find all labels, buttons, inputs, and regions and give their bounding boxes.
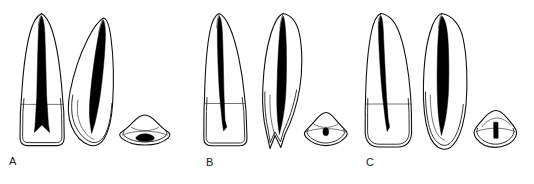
- tooth-group-a: [20, 14, 170, 146]
- tooth-b-proximal-view: [263, 14, 302, 149]
- dental-anatomy-figure: A B C: [0, 0, 534, 184]
- tooth-b-cross-section-view: [304, 113, 347, 146]
- tooth-group-b: [204, 14, 347, 149]
- tooth-a-labial-view: [20, 14, 64, 146]
- tooth-a-proximal-view: [68, 18, 113, 146]
- tooth-c-labial-view: [365, 14, 411, 148]
- tooth-group-c: [365, 14, 516, 150]
- tooth-diagram-canvas: [0, 0, 534, 184]
- group-label-b: B: [206, 157, 214, 168]
- tooth-c-proximal-view: [423, 14, 467, 150]
- tooth-c-cross-section-view: [474, 111, 516, 148]
- group-label-a: A: [9, 156, 17, 167]
- tooth-b-labial-view: [204, 14, 247, 146]
- group-label-c: C: [366, 157, 374, 168]
- tooth-a-cross-section-view: [120, 115, 170, 145]
